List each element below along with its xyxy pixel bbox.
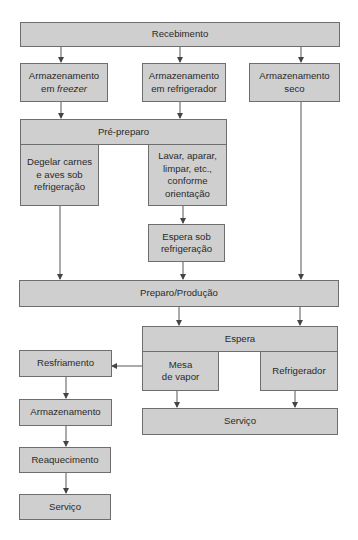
node-servico-right: Serviço (142, 408, 338, 435)
node-armazenamento-freezer: Armazenamento em freezer (20, 63, 108, 102)
node-reaquecimento: Reaquecimento (19, 447, 111, 473)
node-label: Recebimento (152, 28, 209, 41)
node-refrigerador: Refrigerador (260, 351, 338, 391)
node-label: Resfriamento (37, 357, 94, 370)
node-pre-preparo: Pré-preparo (20, 119, 227, 145)
node-espera-sob-refrigeracao: Espera sob refrigeração (148, 224, 225, 262)
node-label: Serviço (224, 415, 256, 428)
node-label-line2: em refrigerador (151, 83, 217, 96)
node-label-line1: Armazenamento (149, 70, 219, 83)
node-degelar: Degelar carnes e aves sob refrigeração (20, 144, 99, 206)
node-recebimento: Recebimento (20, 22, 340, 47)
node-label: Reaquecimento (31, 454, 98, 467)
node-armazenamento-refrigerador: Armazenamento em refrigerador (142, 63, 226, 102)
node-preparo-producao: Preparo/Produção (19, 280, 339, 307)
node-label-line1: Espera sob (162, 231, 211, 244)
node-label-line2: seco (284, 83, 304, 96)
node-label-line1: Armazenamento (29, 70, 99, 83)
node-label-line2: em freezer (41, 83, 87, 96)
node-lavar: Lavar, aparar, limpar, etc., conforme or… (148, 144, 227, 206)
node-resfriamento: Resfriamento (19, 350, 112, 377)
node-servico-left: Serviço (19, 494, 111, 520)
node-armazenamento-seco: Armazenamento seco (249, 63, 340, 102)
node-label-line2: limpar, etc., (163, 163, 212, 176)
node-label-line1: Mesa (169, 359, 192, 372)
node-espera: Espera (142, 326, 338, 352)
node-label: Preparo/Produção (140, 287, 218, 300)
node-label-line3: refrigeração (34, 181, 85, 194)
node-armazenamento: Armazenamento (19, 399, 112, 426)
node-label-line2: de vapor (162, 371, 199, 384)
node-label-line2: refrigeração (161, 243, 212, 256)
node-mesa-de-vapor: Mesa de vapor (142, 351, 219, 391)
node-label: Serviço (49, 501, 81, 514)
node-label-line1: Lavar, aparar, (158, 150, 217, 163)
node-label: Pré-preparo (98, 126, 149, 139)
node-label: Espera (225, 333, 255, 346)
node-label: Armazenamento (30, 406, 100, 419)
node-label-line1: Armazenamento (259, 70, 329, 83)
node-label-line2: e aves sob (36, 169, 82, 182)
node-label-line3: conforme (168, 175, 208, 188)
node-label-line1: Degelar carnes (27, 156, 92, 169)
node-label-prefix: em (41, 83, 57, 94)
node-label-line4: orientação (165, 188, 210, 201)
node-label: Refrigerador (272, 365, 325, 378)
node-label-italic: freezer (57, 83, 87, 94)
